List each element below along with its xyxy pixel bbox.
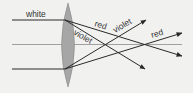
chromatic-aberration-diagram: white red violet violet red: [0, 0, 193, 93]
label-white: white: [25, 9, 46, 19]
label-bottom-red: red: [150, 27, 165, 40]
label-top-violet: violet: [111, 16, 134, 35]
convex-lens: [62, 3, 75, 87]
diagram-canvas: white red violet violet red: [0, 0, 193, 93]
label-bottom-violet: violet: [72, 27, 95, 46]
